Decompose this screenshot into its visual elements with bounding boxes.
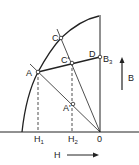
label-c-prime: C' xyxy=(61,55,69,65)
line-o-a xyxy=(30,64,100,132)
point-c-prime xyxy=(70,61,74,65)
label-h2: H2 xyxy=(68,134,79,145)
label-a: A xyxy=(26,68,32,78)
magnetization-arc xyxy=(22,16,99,132)
label-h-axis: H xyxy=(54,150,61,160)
label-d: D xyxy=(89,49,96,59)
label-b3: B3 xyxy=(103,54,113,65)
b-arrow-head xyxy=(120,57,125,63)
point-a-prime xyxy=(71,102,75,106)
label-h1: H1 xyxy=(34,134,45,145)
h-arrow-head xyxy=(93,153,99,158)
point-d xyxy=(98,55,102,59)
point-c xyxy=(59,36,63,40)
bh-curve-diagram: A C C' D B3 A' H1 H2 0 H B xyxy=(0,0,139,165)
label-c: C xyxy=(52,33,59,43)
point-a xyxy=(36,70,40,74)
label-b-axis: B xyxy=(128,73,134,83)
label-a-prime: A' xyxy=(63,103,71,113)
line-o-c xyxy=(57,29,100,132)
label-origin: 0 xyxy=(97,134,102,144)
